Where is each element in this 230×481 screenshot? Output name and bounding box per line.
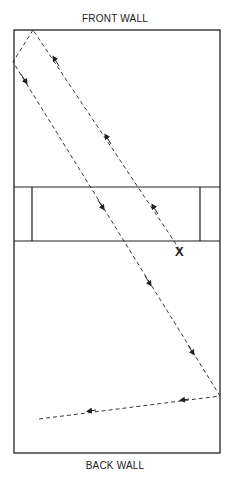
direction-arrows	[21, 58, 193, 411]
arrow-icon	[98, 200, 103, 208]
arrow-icon	[89, 410, 96, 411]
return-path	[13, 30, 220, 419]
arrow-icon	[21, 74, 26, 82]
arrow-icon	[188, 345, 193, 353]
court-diagram	[0, 0, 230, 481]
serve-path	[33, 30, 180, 250]
target-mark: X	[175, 244, 184, 259]
back-wall-label: BACK WALL	[0, 460, 230, 471]
arrow-icon	[145, 276, 150, 284]
